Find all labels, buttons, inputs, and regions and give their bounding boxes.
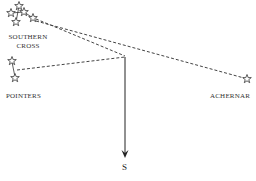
achernar-star	[243, 75, 252, 83]
achernar-label: ACHERNAR	[210, 92, 250, 101]
southern-cross-label: SOUTHERN CROSS	[4, 33, 52, 51]
southern-cross-stars	[7, 2, 38, 26]
pointers-label: POINTERS	[6, 92, 41, 101]
star-icon	[29, 14, 38, 22]
south-label: S	[122, 162, 127, 172]
southern-cross-to-achernar-line	[36, 21, 244, 78]
pointers-bisector-line	[17, 57, 125, 70]
south-arrow	[122, 57, 129, 158]
star-icon	[15, 2, 24, 10]
star-icon	[12, 18, 21, 26]
southern-sky-diagram: SOUTHERN CROSS POINTERS ACHERNAR S	[0, 0, 256, 181]
star-icon	[243, 75, 252, 83]
southern-cross-label-line2: CROSS	[4, 42, 52, 51]
southern-cross-label-line1: SOUTHERN	[4, 33, 52, 42]
star-icon	[11, 74, 20, 82]
star-icon	[7, 9, 16, 17]
